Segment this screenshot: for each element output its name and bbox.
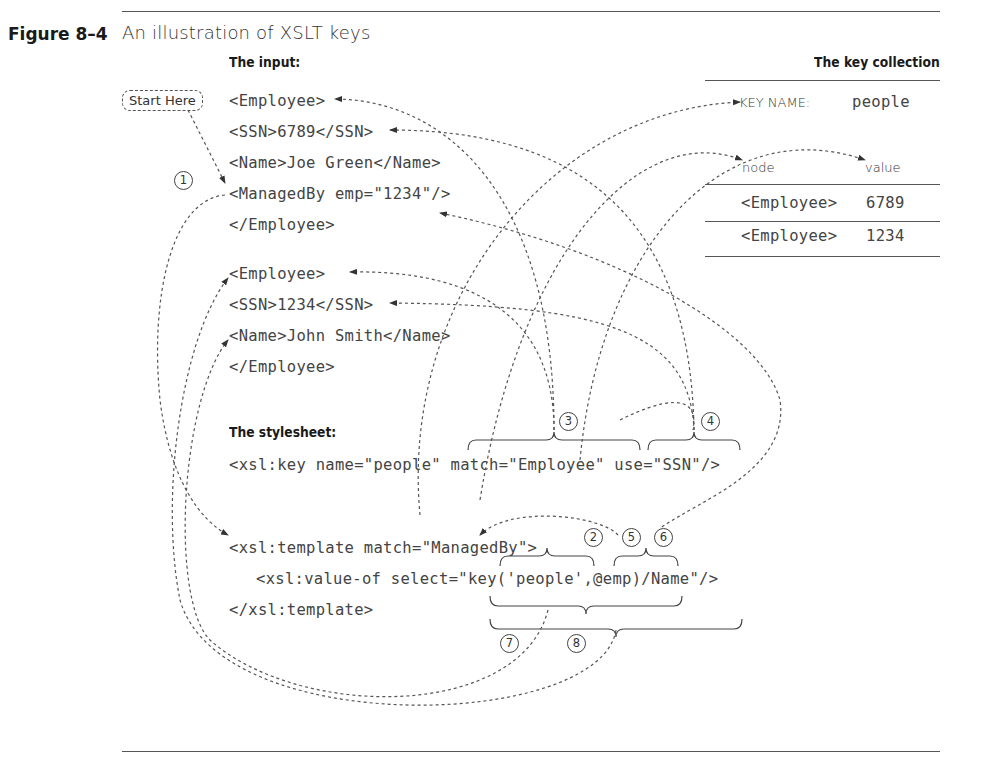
connector-arrows xyxy=(0,0,990,779)
